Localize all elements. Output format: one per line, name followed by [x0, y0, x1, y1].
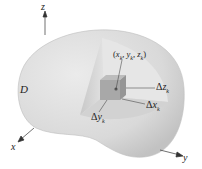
- x-axis-label: x: [11, 142, 15, 152]
- delta-y-label: Δyk: [91, 112, 105, 124]
- diagram-canvas: [0, 0, 202, 169]
- volume-element-box: [100, 75, 126, 100]
- delta-z-label: Δzk: [156, 82, 169, 94]
- point-label: (xk, yk, zk): [113, 50, 146, 61]
- y-axis-arrowhead: [176, 152, 183, 157]
- delta-x-label: Δxk: [146, 100, 160, 112]
- region-label: D: [20, 84, 28, 95]
- y-axis-label: y: [183, 153, 187, 163]
- z-axis-label: z: [41, 2, 45, 12]
